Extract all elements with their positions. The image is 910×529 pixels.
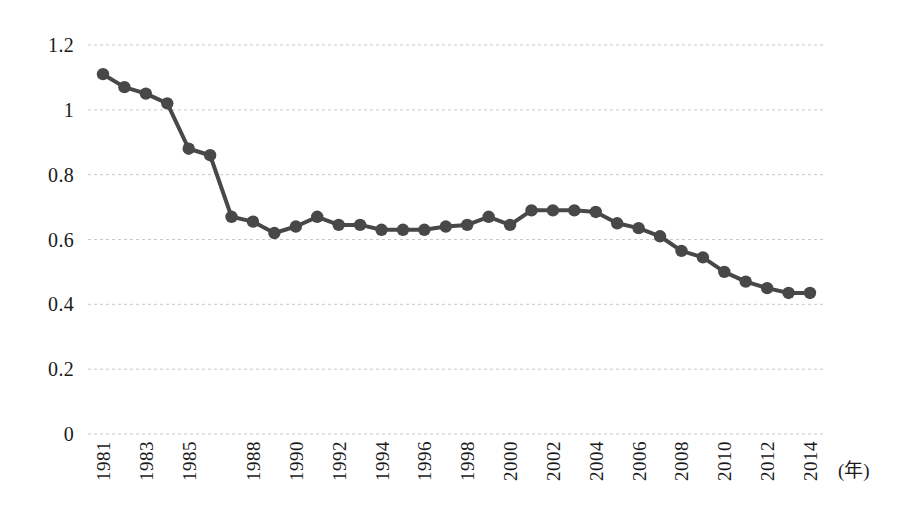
data-series <box>88 45 825 434</box>
data-point <box>118 81 130 93</box>
x-tick-label: 1998 <box>458 441 477 481</box>
data-point <box>140 87 152 99</box>
data-point <box>525 204 537 216</box>
data-point <box>547 204 559 216</box>
x-axis-unit-label: (年) <box>838 455 870 482</box>
x-tick-label: 1990 <box>286 441 305 481</box>
x-tick-label: 1996 <box>415 441 434 481</box>
y-tick-label: 0 <box>64 424 74 444</box>
data-point <box>418 224 430 236</box>
x-tick-label: 1988 <box>243 441 262 481</box>
x-tick-label: 2004 <box>586 441 605 481</box>
data-point <box>268 227 280 239</box>
x-tick-label: 2010 <box>715 441 734 481</box>
x-tick-label: 2002 <box>543 441 562 481</box>
data-point <box>611 217 623 229</box>
y-tick-label: 1.2 <box>48 35 74 55</box>
data-point <box>697 251 709 263</box>
y-axis: 1.210.80.60.40.20 <box>0 45 74 434</box>
x-tick-label: 1992 <box>329 441 348 481</box>
y-tick-label: 0.4 <box>48 294 74 314</box>
data-point <box>311 211 323 223</box>
data-point <box>247 215 259 227</box>
x-axis: 1981198319851988199019921994199619982000… <box>88 441 825 529</box>
x-tick-label: 1985 <box>179 441 198 481</box>
data-point <box>440 220 452 232</box>
line-chart: 1.210.80.60.40.20 1981198319851988199019… <box>0 0 910 529</box>
y-tick-label: 0.8 <box>48 165 74 185</box>
x-tick-label: 2000 <box>501 441 520 481</box>
y-tick-label: 0.2 <box>48 359 74 379</box>
x-tick-label: 1981 <box>94 441 113 481</box>
data-point <box>204 149 216 161</box>
data-point <box>290 220 302 232</box>
data-point <box>632 222 644 234</box>
data-point <box>225 211 237 223</box>
x-tick-label: 2012 <box>758 441 777 481</box>
data-point <box>354 219 366 231</box>
y-tick-label: 1 <box>64 100 74 120</box>
x-tick-label: 2014 <box>801 441 820 481</box>
data-point <box>482 211 494 223</box>
data-point <box>183 143 195 155</box>
x-tick-label: 1994 <box>372 441 391 481</box>
data-point <box>375 224 387 236</box>
x-tick-label: 2008 <box>672 441 691 481</box>
data-point <box>161 97 173 109</box>
data-point <box>654 230 666 242</box>
data-point <box>332 219 344 231</box>
data-point <box>804 287 816 299</box>
data-point <box>740 275 752 287</box>
x-tick-label: 2006 <box>629 441 648 481</box>
data-point <box>97 68 109 80</box>
data-point <box>568 204 580 216</box>
data-point <box>718 266 730 278</box>
y-tick-label: 0.6 <box>48 230 74 250</box>
x-tick-label: 1983 <box>136 441 155 481</box>
data-point <box>397 224 409 236</box>
data-point <box>675 245 687 257</box>
data-point <box>782 287 794 299</box>
plot-area <box>88 45 825 434</box>
data-point <box>590 206 602 218</box>
data-point <box>761 282 773 294</box>
data-point <box>461 219 473 231</box>
data-point <box>504 219 516 231</box>
